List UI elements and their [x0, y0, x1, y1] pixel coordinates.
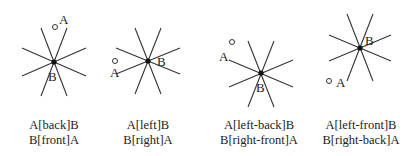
label-a: A	[110, 65, 120, 80]
caption-line-2: B[right-front]A	[206, 133, 312, 148]
point-b-marker	[145, 58, 150, 63]
caption-line-1: A[left-front]B	[308, 118, 414, 133]
diagram-back-front	[22, 28, 86, 96]
caption-line-2: B[front]A	[2, 133, 106, 148]
label-a: A	[219, 49, 229, 64]
label-b: B	[256, 80, 265, 95]
caption-line-1: A[back]B	[2, 118, 106, 133]
label-b: B	[365, 33, 374, 48]
caption-line-2: B[right]A	[96, 133, 200, 148]
caption-left-right: A[left]B B[right]A	[96, 118, 200, 148]
diagram-left-front	[329, 14, 391, 81]
caption-line-1: A[left-back]B	[206, 118, 312, 133]
caption-left-back: A[left-back]B B[right-front]A	[206, 118, 312, 148]
point-b-marker	[51, 59, 56, 64]
label-a: A	[336, 75, 346, 90]
point-a-marker	[230, 40, 235, 45]
point-a-marker	[113, 59, 118, 64]
caption-line-2: B[right-back]A	[308, 133, 414, 148]
diagram-left-right	[116, 28, 180, 94]
point-a-marker	[327, 79, 332, 84]
diagram-left-back	[229, 41, 293, 107]
label-b: B	[48, 69, 57, 84]
label-b: B	[157, 54, 166, 69]
point-b-marker	[258, 70, 263, 75]
label-a: A	[59, 12, 69, 27]
point-a-marker	[53, 25, 58, 30]
caption-left-front: A[left-front]B B[right-back]A	[308, 118, 414, 148]
point-b-marker	[357, 45, 362, 50]
caption-line-1: A[left]B	[96, 118, 200, 133]
caption-back-front: A[back]B B[front]A	[2, 118, 106, 148]
